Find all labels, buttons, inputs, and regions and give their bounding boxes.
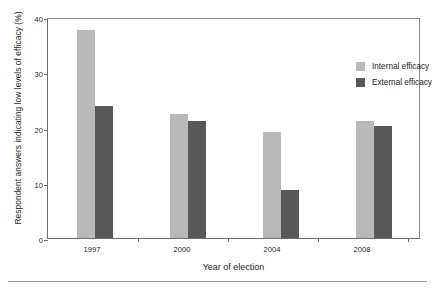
bar-internal-2000	[170, 114, 188, 238]
y-tick-mark-20	[44, 130, 48, 131]
y-axis-title: Respondent answers indicating low levels…	[13, 0, 23, 240]
chart-figure: Respondent answers indicating low levels…	[0, 0, 435, 289]
y-tick-mark-40	[44, 19, 48, 20]
bar-internal-1997	[77, 30, 95, 238]
x-tick-label-1997: 1997	[84, 245, 101, 254]
legend-label-internal: Internal efficacy	[372, 62, 429, 71]
bar-internal-2004	[263, 132, 281, 238]
bar-external-2004	[281, 190, 299, 238]
y-tick-label-10: 10	[29, 180, 43, 189]
bar-internal-2008	[356, 121, 374, 238]
legend-label-external: External efficacy	[372, 78, 432, 87]
x-tick-label-2004: 2004	[264, 245, 281, 254]
y-tick-label-0: 0	[29, 236, 43, 245]
y-tick-mark-0	[44, 240, 48, 241]
x-tick-mark-1	[138, 238, 139, 242]
legend-item-internal: Internal efficacy	[356, 58, 432, 74]
y-tick-mark-30	[44, 74, 48, 75]
y-tick-label-20: 20	[29, 125, 43, 134]
footer-divider	[8, 281, 427, 282]
x-tick-mark-4	[408, 238, 409, 242]
legend-swatch-internal-icon	[356, 62, 365, 71]
y-tick-label-30: 30	[29, 70, 43, 79]
x-tick-mark-2	[228, 238, 229, 242]
x-tick-label-2008: 2008	[354, 245, 371, 254]
x-tick-label-2000: 2000	[174, 245, 191, 254]
x-axis-title: Year of election	[47, 262, 420, 272]
legend-item-external: External efficacy	[356, 74, 432, 90]
chart-legend: Internal efficacy External efficacy	[356, 58, 432, 90]
y-tick-mark-10	[44, 185, 48, 186]
y-tick-label-40: 40	[29, 15, 43, 24]
bar-external-1997	[95, 106, 113, 238]
bar-external-2000	[188, 121, 206, 238]
x-tick-mark-3	[318, 238, 319, 242]
bar-external-2008	[374, 126, 392, 238]
plot-area: 40 30 20 10 0 Internal efficacy	[47, 18, 420, 239]
legend-swatch-external-icon	[356, 78, 365, 87]
